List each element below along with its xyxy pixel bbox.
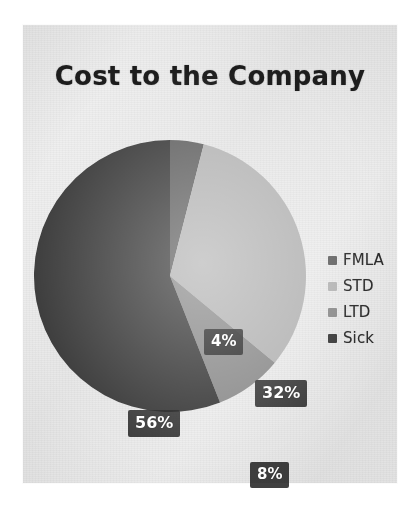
pie-slice-group bbox=[34, 140, 306, 412]
pie-chart: 4% 32% 8% 56% bbox=[34, 134, 306, 418]
data-label-std: 32% bbox=[255, 380, 307, 407]
scanned-chart-panel: Cost to the Company 4% 32% 8% 56% bbox=[23, 25, 397, 483]
legend-swatch-icon-sick bbox=[328, 334, 337, 343]
legend-item-std: STD bbox=[328, 273, 406, 299]
legend-label-std: STD bbox=[343, 277, 374, 295]
chart-legend: FMLA STD LTD Sick bbox=[328, 247, 406, 351]
legend-swatch-icon-std bbox=[328, 282, 337, 291]
legend-label-ltd: LTD bbox=[343, 303, 370, 321]
legend-item-fmla: FMLA bbox=[328, 247, 406, 273]
data-label-fmla: 4% bbox=[204, 329, 243, 355]
legend-label-fmla: FMLA bbox=[343, 251, 384, 269]
chart-page: Cost to the Company 4% 32% 8% 56% bbox=[0, 0, 419, 509]
data-label-ltd: 8% bbox=[250, 462, 289, 488]
page-title: Cost to the Company bbox=[23, 61, 397, 91]
pie-chart-svg bbox=[34, 134, 306, 418]
legend-label-sick: Sick bbox=[343, 329, 374, 347]
legend-swatch-icon-ltd bbox=[328, 308, 337, 317]
legend-item-ltd: LTD bbox=[328, 299, 406, 325]
data-label-sick: 56% bbox=[128, 410, 180, 437]
legend-swatch-icon-fmla bbox=[328, 256, 337, 265]
legend-item-sick: Sick bbox=[328, 325, 406, 351]
